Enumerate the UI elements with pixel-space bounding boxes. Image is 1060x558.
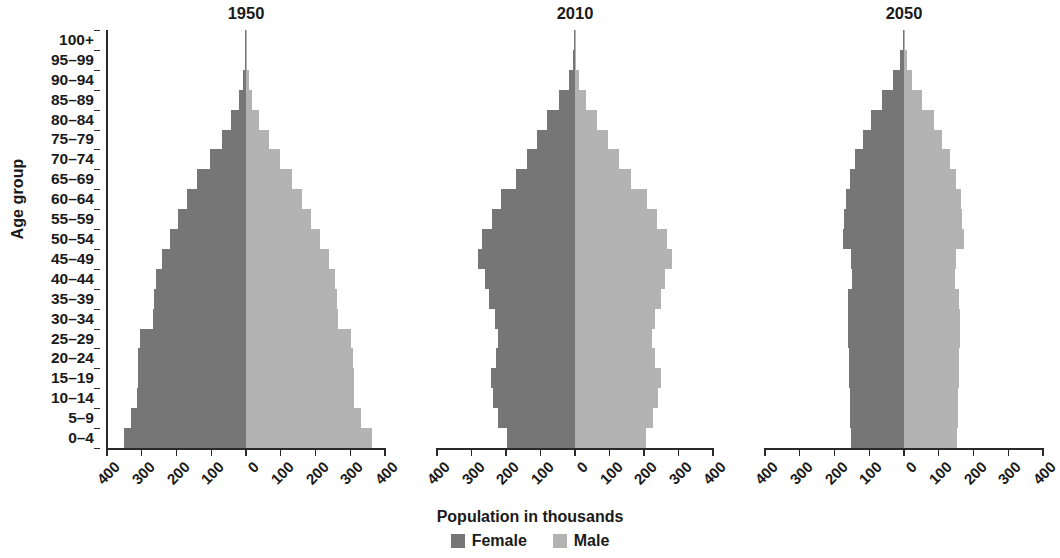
y-axis-tick-label: 15–19 (22, 370, 94, 386)
x-axis-tick-label: 100 (919, 458, 955, 494)
bar-female (178, 209, 246, 229)
x-axis-tick-label: 400 (1023, 458, 1059, 494)
pyramid-row (107, 329, 385, 349)
bar-female (852, 269, 904, 289)
bar-female (138, 348, 246, 368)
bar-female (478, 249, 575, 269)
bar-male (575, 348, 655, 368)
bar-male (575, 408, 653, 428)
bar-female (496, 348, 575, 368)
bar-male (575, 149, 619, 169)
bar-male (904, 130, 942, 150)
bar-male (904, 368, 959, 388)
y-axis-tick-mark (94, 189, 100, 190)
x-axis-tick-mark (712, 449, 713, 456)
plot-area (107, 30, 385, 448)
x-axis-tick-label: 200 (486, 458, 522, 494)
y-axis-tick-label: 25–29 (22, 331, 94, 347)
bar-female (851, 249, 904, 269)
bar-male (246, 229, 320, 249)
legend-item-male: Male (553, 532, 610, 550)
x-axis-tick-label: 300 (451, 458, 487, 494)
x-axis-tick-label: 200 (953, 458, 989, 494)
pyramid-row (437, 249, 713, 269)
bar-female (559, 90, 575, 110)
y-axis-tick-mark (94, 329, 100, 330)
x-axis-tick-label: 300 (658, 458, 694, 494)
x-axis-tick-label: 200 (624, 458, 660, 494)
bar-male (246, 269, 335, 289)
y-axis-tick-label: 70–74 (22, 151, 94, 167)
bar-female (850, 388, 904, 408)
bar-male (904, 189, 961, 209)
y-axis-tick-mark (94, 90, 100, 91)
y-axis-tick-label: 30–34 (22, 311, 94, 327)
pyramid-row (765, 368, 1043, 388)
bar-female (848, 329, 904, 349)
bar-male (246, 368, 354, 388)
bar-male (904, 229, 964, 249)
bar-female (162, 249, 246, 269)
pyramid-row (765, 189, 1043, 209)
bar-male (575, 309, 655, 329)
pyramid-row (107, 130, 385, 150)
bar-male (246, 169, 292, 189)
bar-male (904, 110, 934, 130)
bar-female (849, 368, 904, 388)
pyramid-row (765, 50, 1043, 70)
x-axis-tick-mark (280, 449, 281, 456)
bar-female (137, 388, 246, 408)
pyramid-row (437, 329, 713, 349)
bar-female (849, 348, 904, 368)
legend-label-female: Female (472, 532, 527, 550)
y-axis-tick-label: 20–24 (22, 350, 94, 366)
pyramid-row (107, 90, 385, 110)
pyramid-row (437, 209, 713, 229)
pyramid-row (107, 30, 385, 50)
pyramid-row (107, 309, 385, 329)
pyramid-row (107, 289, 385, 309)
y-axis-tick-label: 35–39 (22, 291, 94, 307)
bar-female (844, 209, 904, 229)
bar-male (904, 388, 958, 408)
bar-male (904, 428, 957, 448)
legend-label-male: Male (574, 532, 610, 550)
bar-male (575, 428, 646, 448)
bar-male (246, 30, 247, 50)
bar-female (855, 149, 904, 169)
x-axis-tick-mark (106, 449, 107, 456)
bar-female (851, 428, 904, 448)
bar-male (246, 189, 302, 209)
x-axis-tick-mark (471, 449, 472, 456)
pyramid-row (107, 189, 385, 209)
pyramid-row (107, 368, 385, 388)
x-axis-tick-mark (1008, 449, 1009, 456)
bar-male (246, 70, 249, 90)
y-axis-tick-mark (94, 70, 100, 71)
pyramid-row (765, 70, 1043, 90)
bar-female (489, 289, 575, 309)
pyramid-row (437, 169, 713, 189)
pyramid-row (107, 408, 385, 428)
bar-female (153, 309, 246, 329)
y-axis-tick-mark (94, 309, 100, 310)
y-axis-tick-label: 90–94 (22, 72, 94, 88)
x-axis-tick-label: 0 (884, 458, 920, 494)
x-axis-tick-label: 400 (417, 458, 453, 494)
bar-female (197, 169, 246, 189)
bar-female (863, 130, 904, 150)
legend-item-female: Female (451, 532, 527, 550)
bar-male (904, 348, 959, 368)
bar-male (575, 189, 647, 209)
pyramid-panel-1950: 1950 (107, 30, 385, 448)
pyramid-row (107, 348, 385, 368)
bar-male (575, 90, 586, 110)
bar-male (575, 50, 576, 70)
x-axis-tick-label: 100 (261, 458, 297, 494)
x-axis-tick-label: 300 (988, 458, 1024, 494)
bar-male (246, 209, 311, 229)
x-axis-tick-mark (799, 449, 800, 456)
bar-male (575, 70, 579, 90)
bar-female (871, 110, 904, 130)
bar-female (516, 169, 575, 189)
